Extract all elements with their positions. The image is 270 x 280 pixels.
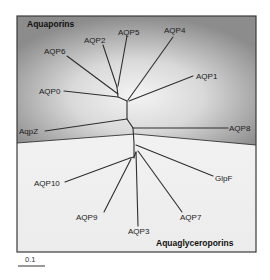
group-label-aquaporins: Aquaporins [27,19,74,29]
leaf-label-glpf: GlpF [215,174,232,183]
leaf-label-aqp3: AQP3 [128,227,150,236]
leaf-label-aqp7: AQP7 [180,213,202,222]
leaf-label-aqp8: AQP8 [229,124,251,133]
leaf-label-aqpz: AqpZ [19,127,38,136]
phylogenetic-tree: Aquaporins Aquaglyceroporins AQP2 AQP5 A… [0,0,270,280]
leaf-label-aqp5: AQP5 [118,28,140,37]
group-label-aquaglyceroporins: Aquaglyceroporins [156,238,234,248]
leaf-label-aqp9: AQP9 [76,213,98,222]
leaf-label-aqp10: AQP10 [34,179,60,188]
leaf-label-aqp0: AQP0 [39,87,61,96]
leaf-label-aqp6: AQP6 [44,47,66,56]
leaf-label-aqp2: AQP2 [84,36,106,45]
leaf-label-aqp1: AQP1 [196,72,218,81]
leaf-label-aqp4: AQP4 [164,26,186,35]
scale-bar-label: 0.1 [25,255,35,264]
